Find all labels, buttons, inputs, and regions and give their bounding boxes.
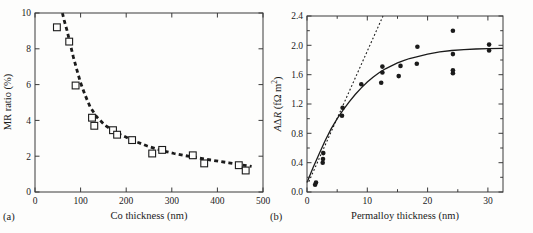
data-point-circle <box>380 64 385 69</box>
y-tick-label: 10 <box>22 8 32 18</box>
y-tick-label: 2 <box>26 152 31 162</box>
fit-curve-solid <box>307 48 503 182</box>
data-point-square <box>235 162 242 169</box>
fit-curve-bold-dashed <box>62 13 251 166</box>
panel-a: 01002003004005000246810 Co thickness (nm… <box>2 8 270 223</box>
dual-panel-figure: 01002003004005000246810 Co thickness (nm… <box>0 0 533 233</box>
data-point-square <box>201 160 208 167</box>
data-point-circle <box>321 157 326 162</box>
data-point-square <box>54 24 61 31</box>
panel-a-plot-area: 01002003004005000246810 <box>22 8 271 206</box>
data-point-square <box>114 131 121 138</box>
panel-b-x-axis-label: Permalloy thickness (nm) <box>351 210 459 222</box>
data-point-circle <box>487 42 492 47</box>
ylabel-segment: ) <box>272 76 284 80</box>
y-tick-label: 0.4 <box>291 158 303 168</box>
y-tick-label: 2.0 <box>291 41 303 51</box>
x-tick-label: 100 <box>73 196 88 206</box>
y-tick-label: 4 <box>26 116 31 126</box>
data-point-square <box>189 152 196 159</box>
x-tick-label: 0 <box>33 196 38 206</box>
y-tick-label: 0.8 <box>291 129 303 139</box>
panel-a-tag: (a) <box>3 211 15 223</box>
x-tick-label: 10 <box>363 196 373 206</box>
data-point-circle <box>451 28 456 33</box>
plot-frame <box>307 16 503 192</box>
y-tick-label: 1.2 <box>291 99 303 109</box>
data-point-circle <box>379 80 384 85</box>
data-point-circle <box>380 70 385 75</box>
panel-b-plot-area: 01020300.00.40.81.21.62.02.4 <box>291 11 503 206</box>
x-tick-label: 300 <box>165 196 180 206</box>
x-tick-label: 400 <box>210 196 225 206</box>
x-tick-label: 30 <box>483 196 493 206</box>
y-tick-label: 2.4 <box>291 11 303 21</box>
data-point-square <box>66 38 73 45</box>
data-point-circle <box>340 105 345 110</box>
x-tick-label: 200 <box>119 196 134 206</box>
panel-b-y-axis-label: AΔR (fΩ m2) <box>270 76 284 133</box>
data-point-square <box>159 147 166 154</box>
data-point-circle <box>359 82 364 87</box>
data-point-circle <box>321 151 326 156</box>
data-point-circle <box>314 180 319 185</box>
data-point-circle <box>415 61 420 66</box>
y-tick-label: 6 <box>26 80 31 90</box>
data-point-circle <box>415 45 420 50</box>
y-tick-label: 0.0 <box>291 187 303 197</box>
data-point-circle <box>398 64 403 69</box>
data-point-circle <box>451 68 456 73</box>
y-tick-label: 0 <box>26 187 31 197</box>
data-point-circle <box>340 113 345 118</box>
data-point-circle <box>487 48 492 53</box>
data-point-circle <box>451 52 456 57</box>
x-tick-label: 500 <box>256 196 271 206</box>
data-point-square <box>242 167 249 174</box>
panel-a-y-axis-label: MR ratio (%) <box>2 73 14 130</box>
ylabel-segment: (fΩ m <box>272 84 284 112</box>
data-point-circle <box>396 74 401 79</box>
giant-magnetoresistance-chart: 01002003004005000246810 Co thickness (nm… <box>0 0 533 233</box>
data-point-square <box>91 122 98 129</box>
x-tick-label: 0 <box>305 196 310 206</box>
data-point-square <box>89 114 96 121</box>
y-tick-label: 1.6 <box>291 70 303 80</box>
panel-b-tag: (b) <box>270 211 283 223</box>
fit-curve-dotted <box>309 16 383 182</box>
panel-b: 01020300.00.40.81.21.62.02.4 Permalloy t… <box>270 11 503 223</box>
panel-a-x-axis-label: Co thickness (nm) <box>111 210 188 222</box>
x-tick-label: 20 <box>423 196 433 206</box>
y-tick-label: 8 <box>26 44 31 54</box>
data-point-square <box>72 82 79 89</box>
data-point-square <box>149 150 156 157</box>
data-point-square <box>129 137 136 144</box>
